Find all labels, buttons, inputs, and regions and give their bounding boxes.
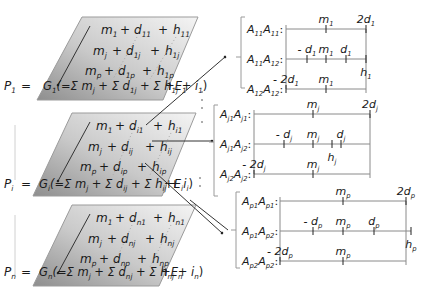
plus-sign: + [153, 119, 163, 133]
plus-sign: + [137, 160, 147, 174]
tick-label-m: mj​ [307, 98, 320, 113]
tick-label-2d: 2dp​ [397, 185, 416, 200]
ellipsis-dot [201, 99, 203, 101]
panel-1: A11​A11​:m1​2d1​A11​A12​:- d1​m1​d1​h1​A… [236, 13, 375, 98]
ellipsis-dot [199, 177, 201, 179]
plus-sign: + [150, 44, 160, 58]
panel-bracket [236, 192, 240, 268]
tick-label-2d: 2dj​ [362, 98, 378, 113]
diagram-canvas: m1​+d11​+h11​mj​+d1j​+h1j​mp​+d1p​+h1p​P… [0, 0, 425, 296]
tick-label-2d: 2d1​ [357, 13, 375, 28]
tick-label-d: d1​ [340, 43, 351, 58]
tick-label-2d: - 2dp​ [267, 245, 293, 260]
ellipsis-dot [201, 121, 203, 123]
plane-lhs: Pn​ [4, 265, 16, 281]
tick-label-m: mj​ [307, 128, 320, 143]
plus-sign: + [158, 23, 168, 37]
pair-label: Aj1​Aj1​: [219, 108, 251, 123]
pair-label: A11​A12​: [246, 53, 283, 68]
tick-label-2d: - 2d1​ [273, 73, 299, 88]
panel-p: Ap1​Ap1​:mp​2dp​Ap1​Ap2​:- dp​mp​dp​hp​A… [231, 185, 417, 270]
tick-label-h: hj​ [328, 151, 337, 166]
plus-sign: + [145, 140, 155, 154]
plane-lhs: P1​ [4, 79, 16, 95]
tick-label-m: m1​ [318, 43, 333, 58]
tick-label-m: mj​ [307, 158, 320, 173]
plus-sign: + [112, 44, 122, 58]
plus-sign: + [104, 64, 114, 78]
ellipsis-dot [201, 107, 203, 109]
tick-label-m: m1​ [318, 13, 333, 28]
tick-label-m: m1​ [318, 73, 333, 88]
plus-sign: + [120, 23, 130, 37]
plus-sign: + [107, 232, 117, 246]
equals-sign: = [21, 265, 31, 279]
tick-label-d: - dj​ [276, 128, 292, 143]
plus-sign: + [115, 211, 125, 225]
tick-label-d: dp​ [368, 215, 380, 230]
equals-sign: = [21, 79, 31, 93]
panel-bracket [214, 105, 218, 196]
tick-label-d: - d1​ [298, 43, 317, 58]
connector-line [190, 200, 228, 230]
plus-sign: + [99, 252, 109, 266]
plus-sign: + [153, 211, 163, 225]
plus-sign: + [99, 160, 109, 174]
plus-sign: + [115, 119, 125, 133]
ellipsis-dot [199, 185, 201, 187]
plane-n: m1​+dn1​+hn1​mj​+dnj​+hnj​mp​+dnp​+hnp​P… [4, 205, 203, 286]
tick-label-m: mp​ [335, 185, 351, 200]
tick-label-h: h1​ [360, 66, 371, 81]
tick-label-d: - dp​ [304, 215, 323, 230]
pair-label: A11​A11​: [246, 23, 283, 38]
diagram-svg: m1​+d11​+h11​mj​+d1j​+h1j​mp​+d1p​+h1p​P… [0, 0, 425, 296]
panel-j: Aj1​Aj1​:mj​2dj​Aj1​Aj2​:- dj​mj​hj​dj​A… [209, 98, 378, 196]
tick-label-h: hp​ [405, 238, 417, 253]
equals-sign: = [21, 177, 31, 191]
plus-sign: + [142, 64, 152, 78]
panel-bracket [241, 17, 245, 88]
tick-label-m: mp​ [335, 245, 351, 260]
pair-label: Ap1​Ap1​: [241, 195, 278, 210]
pair-label: Ap1​Ap2​: [241, 225, 278, 240]
tick-label-m: mp​ [335, 215, 351, 230]
tick-label-2d: - 2dj​ [242, 158, 265, 173]
plane-error-term: +Ei​ [164, 177, 183, 193]
plus-sign: + [145, 232, 155, 246]
plus-sign: + [137, 252, 147, 266]
pair-label: Aj1​Aj2​: [219, 138, 251, 153]
ellipsis-dot [201, 91, 203, 93]
tick-label-d: dj​ [337, 128, 346, 143]
plus-sign: + [107, 140, 117, 154]
plane-1: m1​+d11​+h11​mj​+d1j​+h1j​mp​+d1p​+h1p​P… [4, 17, 207, 100]
plane-lhs: Pi​ [4, 177, 14, 193]
